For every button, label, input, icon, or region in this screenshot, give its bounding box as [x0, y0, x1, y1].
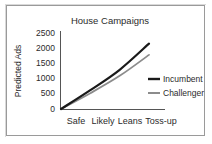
- y-axis-label: Predicted Ads: [13, 45, 23, 97]
- series-line-incumbent: [61, 44, 149, 109]
- y-tick-1500: 1500: [36, 58, 55, 68]
- y-tick-2500: 2500: [36, 28, 55, 38]
- x-tick-tossup: Toss-up: [145, 116, 177, 126]
- y-tick-2000: 2000: [36, 43, 55, 53]
- line-chart-canvas: House Campaigns Predicted Ads 2500 2000 …: [0, 0, 212, 144]
- chart-title: House Campaigns: [71, 15, 149, 26]
- chart-figure: House Campaigns Predicted Ads 2500 2000 …: [0, 0, 212, 144]
- x-tick-leans: Leans: [118, 116, 143, 126]
- x-tick-likely: Likely: [91, 116, 115, 126]
- legend-label-incumbent: Incumbent: [163, 74, 203, 84]
- legend-label-challenger: Challenger: [163, 88, 204, 98]
- y-tick-0: 0: [50, 104, 55, 114]
- y-tick-1000: 1000: [36, 73, 55, 83]
- y-axis-ticks: 2500 2000 1500 1000 500 0: [36, 28, 55, 114]
- y-tick-500: 500: [41, 88, 55, 98]
- chart-legend: Incumbent Challenger: [148, 74, 204, 98]
- x-axis-ticks: Safe Likely Leans Toss-up: [67, 116, 177, 126]
- x-tick-safe: Safe: [67, 116, 86, 126]
